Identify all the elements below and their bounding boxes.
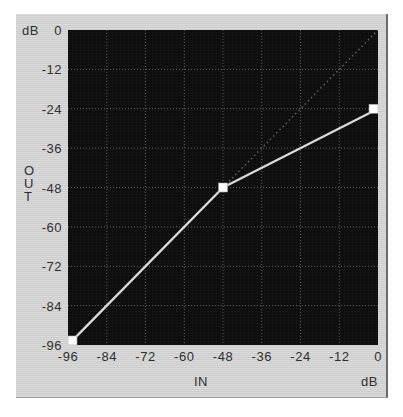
instrument-panel: dB O U T - — [16, 14, 388, 398]
y-tick-label: -12 — [22, 62, 62, 77]
y-tick-label: -36 — [22, 141, 62, 156]
x-axis-title: IN — [16, 374, 386, 389]
y-tick-label: -84 — [22, 299, 62, 314]
y-tick-label: -24 — [22, 102, 62, 117]
y-tick-label: -60 — [22, 220, 62, 235]
transfer-curve-plot[interactable] — [68, 30, 378, 345]
x-tick-label: 0 — [356, 349, 400, 364]
transfer-curve-widget: dB O U T - — [0, 0, 403, 417]
y-tick-label: -48 — [22, 181, 62, 196]
y-tick-label: -72 — [22, 259, 62, 274]
handle-low[interactable] — [68, 336, 77, 345]
x-tick-label: -12 — [317, 349, 361, 364]
handle-knee[interactable] — [219, 183, 228, 192]
x-axis-unit-label: dB — [361, 374, 378, 389]
y-tick-label: -96 — [22, 338, 62, 353]
handle-high[interactable] — [369, 104, 378, 113]
x-tick-label: -48 — [201, 349, 245, 364]
x-tick-label: -72 — [124, 349, 168, 364]
x-tick-label: -60 — [162, 349, 206, 364]
plot-area[interactable] — [68, 30, 378, 345]
x-tick-label: -36 — [240, 349, 284, 364]
x-tick-label: -84 — [85, 349, 129, 364]
x-tick-label: -24 — [279, 349, 323, 364]
y-tick-label: 0 — [22, 23, 62, 38]
